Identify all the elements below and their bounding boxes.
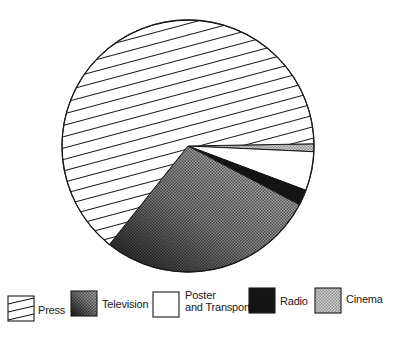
legend-swatch-radio [249, 288, 275, 313]
pie-slices [62, 20, 314, 272]
legend-swatch-press [8, 296, 34, 321]
legend-label-press: Press [38, 304, 65, 316]
legend-label-poster-transport: Poster and Transport [185, 289, 250, 313]
legend-label-cinema: Cinema [346, 293, 383, 305]
legend-label-television: Television [102, 298, 148, 310]
legend-swatch-cinema [315, 288, 341, 313]
legend-swatch-television [71, 291, 97, 316]
legend-swatch-poster-and-transport [153, 292, 179, 317]
legend-label-radio: Radio [280, 295, 308, 307]
